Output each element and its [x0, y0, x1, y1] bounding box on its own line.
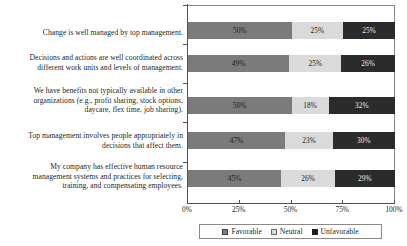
x-axis-tick	[187, 200, 188, 204]
legend-item-unfavorable[interactable]: Unfavorable	[312, 228, 359, 236]
category-label-line: Decisions and actions are well coordinat…	[0, 53, 183, 63]
category-label-line: decisions that affect them.	[0, 141, 183, 151]
bar-segment-favorable: 50%	[188, 97, 292, 114]
bar-segment-value: 50%	[233, 102, 247, 109]
category-label-line: We have benefits not typically available…	[0, 86, 183, 96]
category-label-2: Decisions and actions are well coordinat…	[0, 53, 183, 73]
legend-label: Neutral	[280, 228, 303, 236]
category-label-line: daycare, flex time, job sharing).	[0, 106, 183, 116]
bar-segment-value: 32%	[355, 102, 369, 109]
x-axis-tick-label: 50%	[276, 206, 306, 213]
unfavorable-swatch-icon	[312, 229, 318, 235]
bar-segment-favorable: 47%	[188, 132, 285, 149]
bar-segment-unfavorable: 30%	[333, 132, 395, 149]
x-axis-tick	[342, 200, 343, 204]
bar-segment-value: 49%	[232, 60, 246, 67]
legend-label: Favorable	[231, 228, 261, 236]
category-label-3: We have benefits not typically available…	[0, 86, 183, 116]
bar-segment-unfavorable: 26%	[341, 55, 395, 72]
x-axis-tick	[239, 200, 240, 204]
bar-segment-value: 50%	[233, 27, 247, 34]
y-axis-tick	[183, 162, 187, 163]
category-label-5: My company has effective human resource …	[0, 162, 183, 192]
bar-segment-unfavorable: 29%	[335, 170, 395, 187]
x-axis-tick-label: 75%	[327, 206, 357, 213]
bar-segment-value: 45%	[228, 175, 242, 182]
bar-segment-value: 26%	[301, 175, 315, 182]
bar-segment-unfavorable: 32%	[329, 97, 395, 114]
legend-item-neutral[interactable]: Neutral	[271, 228, 303, 236]
x-axis-tick-label: 100%	[379, 206, 407, 213]
category-label-line: different work units and levels of manag…	[0, 63, 183, 73]
category-label-line: Top management involves people appropria…	[0, 131, 183, 141]
bar-segment-value: 23%	[302, 137, 316, 144]
category-label-1: Change is well managed by top management…	[0, 28, 183, 38]
y-axis-tick	[183, 83, 187, 84]
legend-item-favorable[interactable]: Favorable	[222, 228, 261, 236]
legend-label: Unfavorable	[321, 228, 359, 236]
bar-row: 50%25%25%	[188, 22, 395, 39]
x-axis-tick	[394, 200, 395, 204]
bar-segment-neutral: 26%	[281, 170, 335, 187]
category-label-4: Top management involves people appropria…	[0, 131, 183, 151]
category-label-line: training, and compensating employees.	[0, 182, 183, 192]
bar-segment-value: 25%	[308, 60, 322, 67]
x-axis-tick-label: 0%	[172, 206, 202, 213]
bar-segment-neutral: 25%	[289, 55, 341, 72]
bar-segment-value: 47%	[230, 137, 244, 144]
bar-row: 47%23%30%	[188, 132, 395, 149]
category-label-line: management systems and practices for sel…	[0, 172, 183, 182]
category-axis-labels: Change is well managed by top management…	[0, 0, 183, 204]
x-axis-tick-label: 25%	[224, 206, 254, 213]
bar-row: 49%25%26%	[188, 55, 395, 72]
bar-segment-favorable: 49%	[188, 55, 289, 72]
bar-row: 50%18%32%	[188, 97, 395, 114]
bar-row: 45%26%29%	[188, 170, 395, 187]
bar-segment-unfavorable: 25%	[343, 22, 395, 39]
y-axis-tick	[183, 122, 187, 123]
category-label-line: organizations (e.g., profit sharing, sto…	[0, 96, 183, 106]
bar-segment-value: 25%	[311, 27, 325, 34]
bar-segment-value: 25%	[362, 27, 376, 34]
bar-segment-favorable: 50%	[188, 22, 292, 39]
bar-segment-value: 30%	[357, 137, 371, 144]
chart-legend: Favorable Neutral Unfavorable	[199, 224, 382, 239]
bar-segment-neutral: 18%	[292, 97, 329, 114]
category-label-line: My company has effective human resource	[0, 162, 183, 172]
bar-segment-value: 26%	[361, 60, 375, 67]
y-axis-tick	[183, 5, 187, 6]
bar-segment-neutral: 25%	[292, 22, 344, 39]
bar-segment-value: 18%	[303, 102, 317, 109]
neutral-swatch-icon	[271, 229, 277, 235]
favorable-swatch-icon	[222, 229, 228, 235]
bar-segment-value: 29%	[358, 175, 372, 182]
bar-segment-favorable: 45%	[188, 170, 281, 187]
category-label-line: Change is well managed by top management…	[0, 28, 183, 38]
x-axis-tick	[291, 200, 292, 204]
y-axis-tick	[183, 44, 187, 45]
bar-segment-neutral: 23%	[285, 132, 333, 149]
